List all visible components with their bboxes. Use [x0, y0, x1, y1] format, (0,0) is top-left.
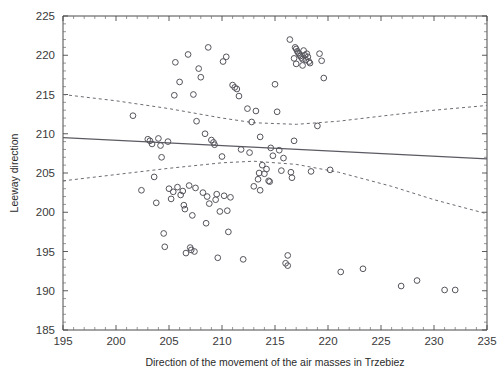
data-point: [256, 170, 262, 176]
data-point: [452, 287, 458, 293]
data-point: [183, 250, 189, 256]
plot-frame: [63, 16, 487, 330]
x-tick-label: 195: [53, 335, 72, 347]
data-point: [170, 189, 176, 195]
data-point: [288, 169, 294, 175]
data-point: [205, 45, 211, 51]
data-point: [245, 106, 251, 112]
data-point: [181, 202, 187, 208]
data-point: [203, 220, 209, 226]
data-point: [264, 166, 270, 172]
y-tick-label: 205: [36, 167, 55, 179]
data-point: [257, 134, 263, 140]
data-point: [281, 155, 287, 161]
data-point: [193, 185, 199, 191]
data-point: [272, 81, 278, 87]
data-point: [293, 61, 299, 67]
plot-svg: 195200205210215220225230235 185190195200…: [0, 0, 504, 382]
data-point: [168, 196, 174, 202]
data-point: [274, 109, 280, 115]
data-point: [291, 138, 297, 144]
data-point: [185, 52, 191, 58]
data-point: [214, 191, 220, 197]
y-tick-label: 190: [36, 285, 55, 297]
data-point: [236, 93, 242, 99]
x-tick-label: 230: [424, 335, 443, 347]
data-point: [194, 118, 200, 124]
data-point: [165, 139, 171, 145]
data-point: [151, 174, 157, 180]
y-tick-label: 200: [36, 206, 55, 218]
data-point: [442, 287, 448, 293]
x-axis-title: Direction of the movement of the air mas…: [145, 356, 404, 368]
data-point: [219, 154, 225, 160]
y-tick-label: 215: [36, 89, 55, 101]
data-point: [182, 206, 188, 212]
data-point: [308, 169, 314, 175]
x-tick-label: 205: [159, 335, 178, 347]
data-point: [153, 200, 159, 206]
data-point: [360, 266, 366, 272]
data-point: [171, 92, 177, 98]
scatter-plot-figure: 195200205210215220225230235 185190195200…: [0, 0, 504, 382]
x-tick-label: 235: [477, 335, 496, 347]
data-point: [162, 244, 168, 250]
data-point: [285, 253, 291, 259]
data-point: [202, 131, 208, 137]
data-point: [204, 194, 210, 200]
data-point: [321, 75, 327, 81]
x-tick-label: 200: [106, 335, 125, 347]
data-point: [315, 123, 321, 129]
y-axis-title: Leeway direction: [8, 133, 20, 212]
data-point: [257, 187, 263, 193]
y-axis-tick-labels: 185190195200205210215220225: [36, 10, 55, 336]
data-point: [158, 143, 164, 149]
y-tick-label: 225: [36, 10, 55, 22]
data-point: [414, 278, 420, 284]
data-point: [177, 79, 183, 85]
y-tick-label: 195: [36, 246, 55, 258]
data-point: [338, 269, 344, 275]
data-point: [240, 256, 246, 262]
data-point: [189, 213, 195, 219]
data-point: [251, 183, 257, 189]
data-point: [247, 150, 253, 156]
data-point: [161, 231, 167, 237]
data-point: [159, 154, 165, 160]
data-point: [130, 113, 136, 119]
data-point: [215, 255, 221, 261]
y-axis-ticks: [63, 16, 487, 330]
data-point: [319, 58, 325, 64]
data-point: [291, 56, 297, 62]
data-points: [130, 37, 458, 293]
data-point: [224, 208, 230, 214]
regression-line: [63, 138, 487, 159]
x-tick-label: 225: [371, 335, 390, 347]
data-point: [186, 183, 192, 189]
data-point: [213, 197, 219, 203]
x-axis-tick-labels: 195200205210215220225230235: [53, 335, 496, 347]
data-point: [289, 175, 295, 181]
data-point: [226, 229, 232, 235]
data-point: [217, 209, 223, 215]
data-point: [221, 193, 227, 199]
data-point: [270, 153, 276, 159]
y-tick-label: 185: [36, 324, 55, 336]
x-tick-label: 220: [318, 335, 337, 347]
data-point: [198, 74, 204, 80]
data-point: [253, 108, 259, 114]
data-point: [317, 51, 323, 57]
data-point: [173, 59, 179, 65]
lower-confidence-band: [63, 161, 487, 214]
data-point: [398, 283, 404, 289]
data-point: [255, 176, 261, 182]
y-tick-label: 220: [36, 49, 55, 61]
data-point: [206, 201, 212, 207]
data-point: [279, 168, 285, 174]
regression-line: [63, 138, 487, 159]
data-point: [238, 147, 244, 153]
data-point: [228, 194, 234, 200]
data-point: [300, 63, 306, 69]
data-point: [139, 187, 145, 193]
x-tick-label: 215: [265, 335, 284, 347]
